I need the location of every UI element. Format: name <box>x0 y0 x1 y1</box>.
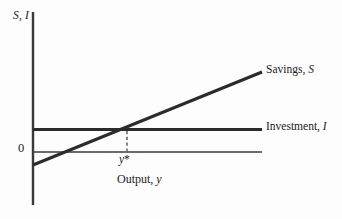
x-axis-label-prefix: Output, <box>117 172 156 186</box>
savings-curve <box>33 72 262 165</box>
y-axis-label: S, I <box>13 10 29 22</box>
investment-label-symbol: I <box>323 120 327 132</box>
savings-label-symbol: S <box>308 63 314 75</box>
x-axis-label-symbol: y <box>156 172 161 186</box>
savings-label-prefix: Savings, <box>266 63 308 75</box>
x-axis-label: Output, y <box>117 173 162 185</box>
savings-curve-label: Savings, S <box>266 64 314 76</box>
investment-label-prefix: Investment, <box>266 120 323 132</box>
y-axis-label-text: S, I <box>13 9 29 21</box>
savings-investment-diagram: S, I 0 Savings, S Investment, I y* Outpu… <box>0 0 342 219</box>
origin-label: 0 <box>18 142 24 155</box>
chart-canvas <box>0 0 342 219</box>
origin-label-text: 0 <box>18 141 24 155</box>
investment-curve-label: Investment, I <box>266 121 327 133</box>
equilibrium-output-label: y* <box>119 154 130 166</box>
equilibrium-label-star: * <box>124 153 130 165</box>
